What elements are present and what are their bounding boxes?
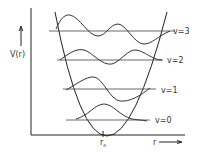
y-axis-arrow-icon — [19, 26, 22, 46]
x-axis-label: r — [153, 138, 157, 147]
wavefunction-v3 — [56, 15, 170, 44]
level-label-v0: v=0 — [155, 116, 172, 125]
potential-diagram: V(r) v=3 v=2 v=1 v=0 re r — [0, 0, 201, 152]
level-label-v2: v=2 — [167, 56, 184, 65]
level-label-v3: v=3 — [173, 27, 190, 36]
wavefunction-v2 — [60, 50, 162, 65]
y-axis-label: V(r) — [10, 50, 25, 59]
level-label-v1: v=1 — [161, 86, 178, 95]
x-axis-arrow-icon — [159, 141, 182, 144]
equilibrium-label: re — [100, 138, 106, 148]
